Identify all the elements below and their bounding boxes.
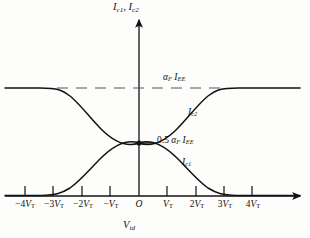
x-tick-label-2vt: 2VT	[190, 200, 205, 210]
curve-label-ic2: Ic2	[188, 108, 197, 118]
x-tick-label-4vt: 4VT	[246, 200, 261, 210]
curve-label-ic2-sub: c2	[191, 110, 197, 117]
x-axis-title-sub: id	[129, 224, 135, 232]
figure-panel: Ic1, Ic2 Vid αF IEE 0.5 αF IEE Ic2 Ic1 −…	[0, 0, 310, 238]
half-level-number: 0.5	[157, 135, 171, 145]
y-axis-title-sub-2: c2	[132, 6, 139, 14]
curve-ic1	[5, 88, 300, 196]
x-tick-label--3vt: −3VT	[44, 200, 64, 210]
x-tick-label-3vt: 3VT	[218, 200, 233, 210]
half-level-current-sub: EE	[186, 138, 194, 145]
y-axis-title: Ic1, Ic2	[113, 2, 139, 14]
crossing-point-marker	[136, 140, 141, 145]
half-level-label: 0.5 αF IEE	[157, 136, 194, 146]
x-axis-title: Vid	[123, 220, 135, 232]
saturation-level-label: αF IEE	[163, 73, 185, 83]
x-tick-label--2vt: −2VT	[73, 200, 93, 210]
x-tick-label-1vt: VT	[163, 200, 173, 210]
x-tick-label--1vt: −VT	[103, 200, 118, 210]
x-tick-label--4vt: −4VT	[15, 200, 35, 210]
curve-label-ic1-sub: c1	[185, 160, 191, 167]
curve-label-ic1: Ic1	[182, 158, 191, 168]
x-tick-label-origin: O	[136, 200, 143, 210]
saturation-current-sub: EE	[178, 75, 186, 82]
